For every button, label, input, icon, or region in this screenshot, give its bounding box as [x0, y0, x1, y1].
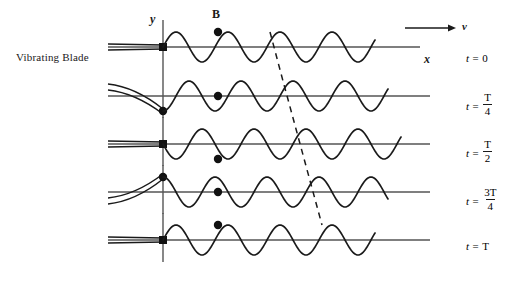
- crest-trace-path: [270, 32, 322, 225]
- particle-b-marker: [214, 221, 222, 229]
- time-label-t-quarter: t = T 4: [466, 93, 493, 118]
- velocity-label: v: [462, 21, 467, 32]
- velocity-arrow-head: [448, 24, 456, 31]
- wave-rows-group: [108, 20, 430, 262]
- x-axis-label: x: [424, 53, 430, 65]
- vibrating-blade-edge: [108, 146, 163, 147]
- time-label-value: T: [482, 240, 489, 252]
- time-label-t-three-quarter: t = 3T 4: [466, 188, 498, 213]
- time-label-prefix: t =: [466, 147, 479, 159]
- fraction-denominator: 4: [483, 104, 493, 117]
- vibrating-blade-edge: [108, 141, 163, 142]
- fraction-numerator: 3T: [482, 187, 498, 199]
- particle-b-marker: [214, 92, 222, 100]
- fraction-denominator: 2: [483, 151, 493, 164]
- time-label-prefix: t =: [466, 52, 479, 64]
- vibrating-blade-edge: [108, 237, 163, 238]
- wave-row: [108, 117, 430, 166]
- velocity-arrow: [405, 24, 456, 31]
- wave-row: [108, 213, 430, 262]
- wave-propagation-figure: [0, 0, 523, 283]
- fraction: T 4: [482, 92, 493, 117]
- particle-b-marker: [214, 188, 222, 196]
- time-label-prefix: t =: [466, 195, 479, 207]
- fraction: 3T 4: [482, 187, 498, 212]
- vibrating-blade-edge: [108, 242, 163, 243]
- time-label-prefix: t =: [466, 100, 479, 112]
- y-axis-label: y: [150, 13, 155, 25]
- fraction-denominator: 4: [486, 199, 496, 212]
- crest-trace-dashed-line: [270, 32, 322, 225]
- time-label-t-full: t = T: [466, 240, 489, 252]
- time-label-t-half: t = T 2: [466, 140, 493, 165]
- fraction-numerator: T: [482, 92, 493, 104]
- vibrating-blade-edge: [108, 49, 163, 50]
- particle-b-marker: [214, 28, 222, 36]
- fraction: T 2: [482, 139, 493, 164]
- wave-row: [108, 165, 430, 214]
- time-label-value: 0: [482, 52, 488, 64]
- vibrating-blade-edge: [108, 44, 163, 45]
- time-label-t0: t = 0: [466, 52, 488, 64]
- time-label-prefix: t =: [466, 240, 479, 252]
- point-b-label: B: [212, 8, 220, 20]
- wave-row: [108, 69, 430, 118]
- particle-b-marker: [214, 155, 222, 163]
- fraction-numerator: T: [482, 139, 493, 151]
- wave-row: [108, 20, 420, 69]
- vibrating-blade-label: Vibrating Blade: [16, 52, 89, 63]
